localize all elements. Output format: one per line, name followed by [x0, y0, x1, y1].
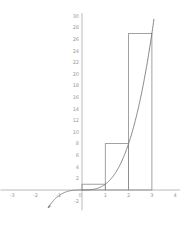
y-tick-label: 8: [76, 140, 79, 146]
y-tick-label: 18: [73, 82, 79, 88]
y-tick-label: 28: [73, 24, 79, 30]
y-tick-label: 30: [73, 13, 79, 19]
x-tick-label: -3: [10, 192, 15, 198]
riemann-rectangle: [105, 144, 128, 190]
y-tick-label: 10: [73, 129, 79, 135]
riemann-rectangles: [82, 33, 152, 190]
y-tick-label: -2: [74, 198, 79, 204]
y-tick-label: 6: [76, 152, 79, 158]
x-tick-label: 4: [174, 192, 177, 198]
cubic-curve: [48, 19, 154, 208]
x-tick-label: -2: [33, 192, 38, 198]
x-tick-label: 2: [127, 192, 130, 198]
y-tick-label: 2: [76, 175, 79, 181]
chart-canvas: -3-2-101234-224681012141618202224262830: [0, 0, 185, 227]
y-tick-label: 22: [73, 59, 79, 65]
y-tick-label: 24: [73, 48, 79, 54]
function-curve: [48, 19, 154, 208]
y-tick-label: 16: [73, 94, 79, 100]
y-tick-label: 4: [76, 164, 79, 170]
x-tick-label: 0: [78, 192, 81, 198]
x-tick-label: 1: [104, 192, 107, 198]
y-tick-label: 14: [73, 106, 79, 112]
axes: [0, 13, 179, 210]
x-tick-label: 3: [150, 192, 153, 198]
y-tick-label: 20: [73, 71, 79, 77]
y-tick-label: 26: [73, 36, 79, 42]
y-tick-label: 12: [73, 117, 79, 123]
